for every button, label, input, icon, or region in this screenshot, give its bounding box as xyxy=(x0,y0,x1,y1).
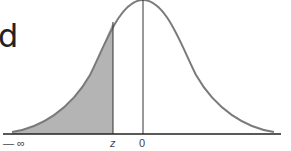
neg-infinity-label: — ∞ xyxy=(3,137,25,149)
z-label: z xyxy=(110,137,116,149)
shaded-area xyxy=(12,22,113,134)
normal-curve-diagram xyxy=(0,0,291,151)
zero-label: 0 xyxy=(139,137,145,149)
